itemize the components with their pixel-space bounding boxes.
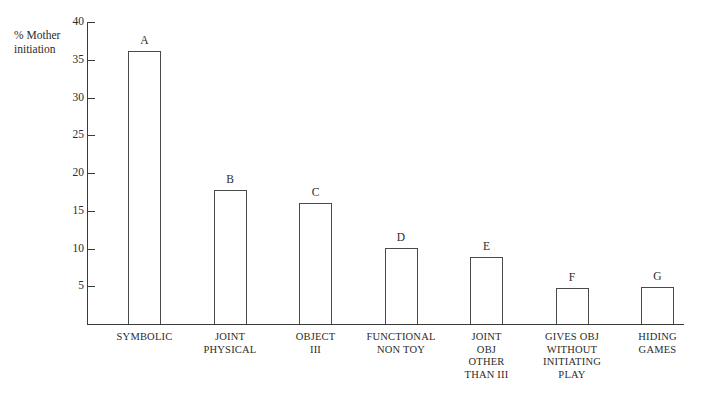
y-axis-tick-mark: [88, 173, 95, 174]
bar-value-letter: E: [456, 241, 517, 253]
y-axis-tick-label: 20: [54, 167, 84, 179]
y-axis-tick-mark: [88, 135, 95, 136]
y-axis-tick-label-text: 25: [58, 129, 84, 141]
x-axis-category-label: HIDINGGAMES: [608, 331, 708, 356]
y-axis-tick-mark: [88, 286, 95, 287]
bar-value-letter: C: [285, 187, 346, 199]
y-axis-tick-label-text: 20: [58, 167, 84, 179]
bar: [641, 287, 674, 324]
bar-value-letter: F: [542, 272, 603, 284]
bar: [385, 248, 418, 324]
y-axis-tick-label-text: 10: [58, 243, 84, 255]
bar-value-letter: G: [627, 271, 688, 283]
y-axis-tick-label: 15: [54, 205, 84, 217]
y-axis-tick-label-text: 30: [58, 92, 84, 104]
bar-value-letter: D: [371, 232, 432, 244]
x-axis-category-label-line: GAMES: [608, 344, 708, 357]
y-axis-tick-mark: [88, 22, 95, 23]
y-axis-tick-label: 40: [54, 16, 84, 28]
y-axis-tick-label: 30: [54, 92, 84, 104]
y-axis-tick-mark: [88, 211, 95, 212]
y-axis-tick-mark: [88, 249, 95, 250]
y-axis-tick-mark: [88, 60, 95, 61]
x-axis-category-label-line: HIDING: [608, 331, 708, 344]
x-axis-category-label-line: INITIATING: [522, 356, 622, 369]
y-axis-tick-label: 25: [54, 129, 84, 141]
bar: [556, 288, 589, 324]
x-axis-category-label-line: PLAY: [522, 369, 622, 382]
y-axis-tick-label-text: 5: [58, 280, 84, 292]
y-axis-tick-label: 5: [54, 280, 84, 292]
y-axis-tick-label: 35: [54, 54, 84, 66]
y-axis-tick-mark: [88, 98, 95, 99]
bar: [299, 203, 332, 324]
y-axis-title: % Mother initiation: [14, 29, 86, 56]
bar-value-letter: A: [114, 35, 175, 47]
bar: [128, 51, 161, 324]
y-axis-tick-label-text: 35: [58, 54, 84, 66]
bar-chart: % Mother initiation 510152025303540 ABCD…: [0, 0, 719, 398]
bar: [470, 257, 503, 324]
bar-value-letter: B: [200, 174, 261, 186]
y-axis-tick-label-text: 15: [58, 205, 84, 217]
bar: [214, 190, 247, 324]
x-axis-line: [87, 324, 684, 325]
y-axis-tick-label-text: 40: [58, 16, 84, 28]
y-axis-tick-label: 10: [54, 243, 84, 255]
